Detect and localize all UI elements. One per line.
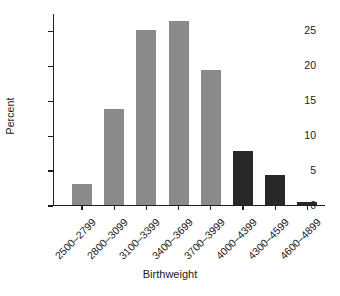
bar-3700–3999 (201, 70, 221, 205)
bar-4000–4399 (233, 151, 253, 205)
y-tick-label: 25 (292, 25, 316, 36)
x-tick (307, 206, 308, 210)
x-tick (242, 206, 243, 210)
y-axis-title: Percent (4, 86, 16, 146)
x-tick-label: 2800–3099 (0, 217, 130, 296)
bar-2800–3099 (104, 109, 124, 205)
y-tick-20 (48, 66, 53, 67)
y-tick-15 (48, 101, 53, 102)
x-tick-label: 2500–2799 (0, 217, 98, 296)
x-tick-label: 4000–4399 (110, 217, 259, 296)
bar-4300–4599 (265, 175, 285, 205)
y-tick-label: 20 (292, 60, 316, 71)
bar-4600–4899 (297, 202, 317, 205)
x-tick (146, 206, 147, 210)
bar-chart: Percent 0510152025 2500–27992800–3099310… (0, 0, 340, 296)
bar-2500–2799 (72, 184, 92, 206)
x-tick (114, 206, 115, 210)
y-tick-label: 5 (292, 165, 316, 176)
y-tick-25 (48, 31, 53, 32)
y-tick-10 (48, 136, 53, 137)
x-axis-title: Birthweight (0, 268, 340, 280)
x-tick (81, 206, 82, 210)
x-tick-label: 3400–3699 (45, 217, 194, 296)
x-tick-label: 4300–4599 (142, 217, 291, 296)
y-tick-0 (48, 205, 53, 206)
x-tick-label: 4600–4899 (174, 217, 323, 296)
y-tick-label: 15 (292, 95, 316, 106)
plot-area: 0510152025 (53, 14, 325, 206)
x-tick-label: 3100–3399 (13, 217, 162, 296)
bar-3400–3699 (169, 21, 189, 205)
y-axis-line (53, 14, 54, 206)
x-tick (275, 206, 276, 210)
y-tick-5 (48, 170, 53, 171)
x-tick (210, 206, 211, 210)
bar-3100–3399 (136, 30, 156, 205)
x-tick-label: 3700–3999 (78, 217, 227, 296)
x-tick (178, 206, 179, 210)
y-tick-label: 10 (292, 130, 316, 141)
